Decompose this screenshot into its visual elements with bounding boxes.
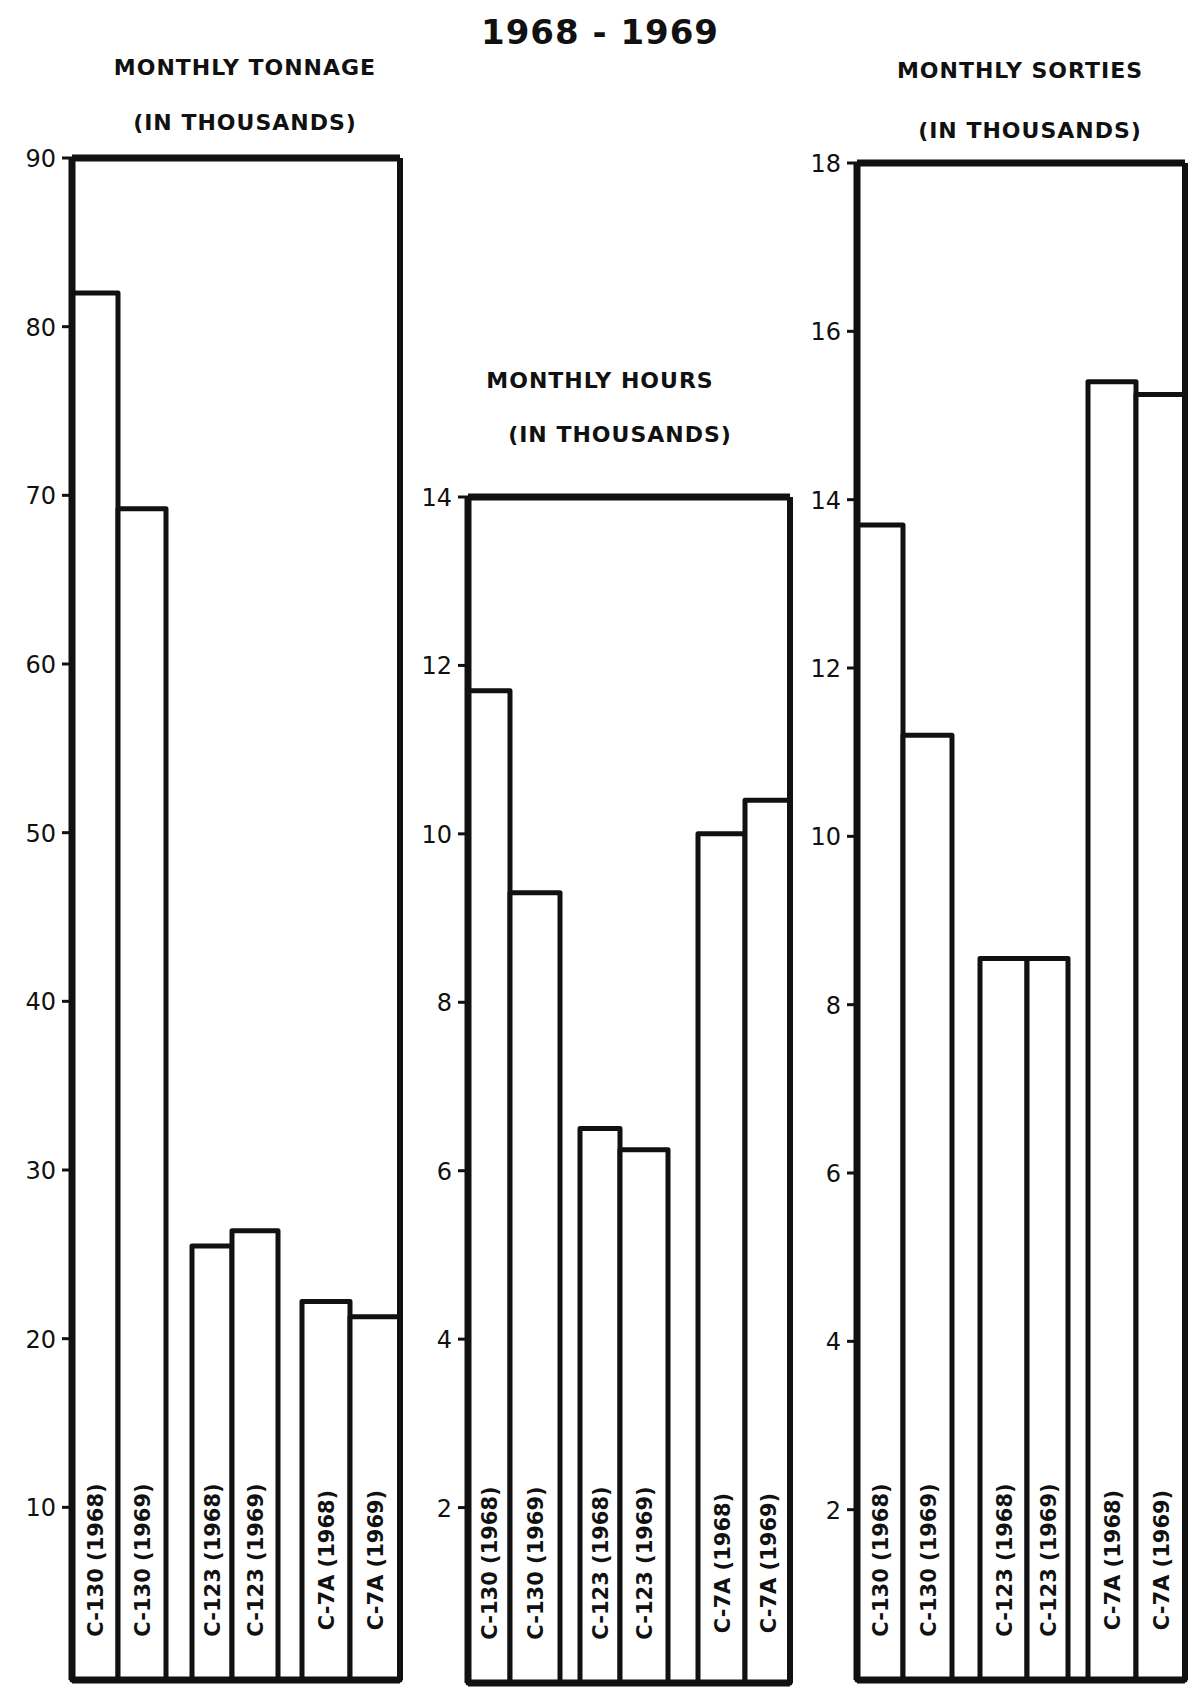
y-tick-label: 20 xyxy=(25,1326,56,1354)
bar-sorties-2: C-123 (1968) xyxy=(980,958,1027,1680)
bar-category-label: C-7A (1969) xyxy=(364,1490,388,1630)
y-tick-label: 90 xyxy=(25,145,56,173)
y-tick-label: 16 xyxy=(810,318,841,346)
bar-hours-3: C-123 (1969) xyxy=(620,1150,668,1683)
y-tick-label: 10 xyxy=(25,1494,56,1522)
charts-canvas: C-130 (1968)C-130 (1969)C-123 (1968)C-12… xyxy=(0,0,1200,1708)
y-tick-label: 2 xyxy=(437,1495,452,1523)
bar-category-label: C-123 (1969) xyxy=(633,1486,657,1639)
bar-category-label: C-123 (1969) xyxy=(244,1483,268,1636)
sorties-chart: C-130 (1968)C-130 (1969)C-123 (1968)C-12… xyxy=(810,150,1185,1680)
bar-tonnage-1: C-130 (1969) xyxy=(118,509,166,1680)
y-tick-label: 40 xyxy=(25,988,56,1016)
bar-category-label: C-130 (1969) xyxy=(917,1483,941,1636)
y-tick-label: 6 xyxy=(826,1160,841,1188)
bar-category-label: C-7A (1968) xyxy=(1101,1490,1125,1630)
y-tick-label: 10 xyxy=(810,823,841,851)
bar-hours-0: C-130 (1968) xyxy=(468,691,510,1683)
bar-category-label: C-123 (1969) xyxy=(1037,1483,1061,1636)
hours-chart: C-130 (1968)C-130 (1969)C-123 (1968)C-12… xyxy=(421,484,790,1683)
y-tick-label: 50 xyxy=(25,820,56,848)
tonnage-chart: C-130 (1968)C-130 (1969)C-123 (1968)C-12… xyxy=(25,145,400,1680)
y-tick-label: 6 xyxy=(437,1158,452,1186)
bar-category-label: C-130 (1968) xyxy=(478,1486,502,1639)
bar-sorties-0: C-130 (1968) xyxy=(857,525,903,1680)
bar-category-label: C-7A (1969) xyxy=(757,1493,781,1633)
y-tick-label: 80 xyxy=(25,314,56,342)
bar-sorties-1: C-130 (1969) xyxy=(903,735,952,1680)
y-tick-label: 12 xyxy=(421,652,452,680)
bar-tonnage-4: C-7A (1968) xyxy=(302,1302,350,1680)
bar-hours-1: C-130 (1969) xyxy=(510,893,560,1683)
bar-category-label: C-123 (1968) xyxy=(589,1486,613,1639)
y-tick-label: 10 xyxy=(421,821,452,849)
bar-tonnage-2: C-123 (1968) xyxy=(192,1246,232,1680)
bar-hours-2: C-123 (1968) xyxy=(580,1129,620,1683)
bar-tonnage-5: C-7A (1969) xyxy=(350,1317,400,1680)
bar-tonnage-0: C-130 (1968) xyxy=(72,293,118,1680)
bar-category-label: C-7A (1968) xyxy=(315,1490,339,1630)
y-tick-label: 70 xyxy=(25,482,56,510)
bar-sorties-3: C-123 (1969) xyxy=(1027,958,1068,1680)
bar-tonnage-3: C-123 (1969) xyxy=(232,1231,278,1680)
y-tick-label: 30 xyxy=(25,1157,56,1185)
y-tick-label: 8 xyxy=(826,992,841,1020)
y-tick-label: 2 xyxy=(826,1497,841,1525)
bar-sorties-4: C-7A (1968) xyxy=(1088,382,1136,1680)
y-tick-label: 4 xyxy=(437,1326,452,1354)
bar-category-label: C-130 (1969) xyxy=(131,1483,155,1636)
bar-category-label: C-123 (1968) xyxy=(201,1483,225,1636)
y-tick-label: 8 xyxy=(437,989,452,1017)
bar-category-label: C-7A (1969) xyxy=(1150,1490,1174,1630)
y-tick-label: 12 xyxy=(810,655,841,683)
y-tick-label: 60 xyxy=(25,651,56,679)
y-tick-label: 14 xyxy=(810,487,841,515)
y-tick-label: 18 xyxy=(810,150,841,178)
bar-sorties-5: C-7A (1969) xyxy=(1136,394,1185,1680)
bar-category-label: C-123 (1968) xyxy=(993,1483,1017,1636)
bar-hours-4: C-7A (1968) xyxy=(698,834,745,1683)
y-tick-label: 14 xyxy=(421,484,452,512)
bar-category-label: C-130 (1968) xyxy=(869,1483,893,1636)
bar-category-label: C-130 (1969) xyxy=(524,1486,548,1639)
bar-category-label: C-130 (1968) xyxy=(84,1483,108,1636)
y-tick-label: 4 xyxy=(826,1328,841,1356)
bar-category-label: C-7A (1968) xyxy=(711,1493,735,1633)
bar-hours-5: C-7A (1969) xyxy=(745,800,790,1683)
